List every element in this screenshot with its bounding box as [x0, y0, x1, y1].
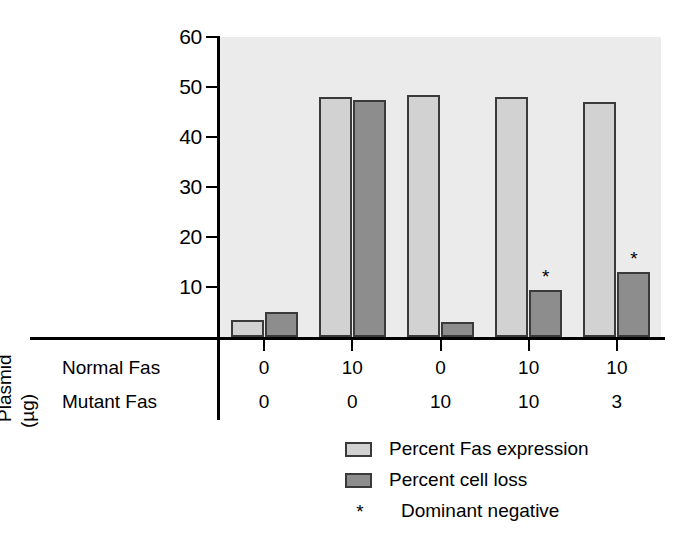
- y-axis-label-group: 60 50 40 30 20 10: [150, 0, 202, 360]
- bar-fas-expression-group-3: [407, 95, 440, 338]
- group-value-normal-fas-3: 0: [411, 358, 471, 377]
- bar-fas-expression-group-1: [231, 320, 264, 338]
- group-value-normal-fas-4: 10: [499, 358, 559, 377]
- x-tick-mark-group-2: [351, 340, 353, 351]
- y-tick-mark-60: [206, 36, 218, 38]
- legend-item-fas-expression: Percent Fas expression: [345, 436, 645, 467]
- bar-fas-expression-group-2: [319, 97, 352, 337]
- x-tick-mark-group-3: [440, 340, 442, 351]
- bar-cell-loss-group-5: [617, 272, 650, 337]
- group-value-normal-fas-5: 10: [587, 358, 647, 377]
- y-tick-label-50: 50: [150, 76, 202, 97]
- group-value-normal-fas-2: 10: [322, 358, 382, 377]
- bar-chart-figure: 60 50 40 30 20 10 ** Plasmid (µg) Normal…: [0, 0, 693, 547]
- x-tick-mark-group-4: [528, 340, 530, 351]
- y-tick-mark-30: [206, 186, 218, 188]
- group-value-mutant-fas-1: 0: [234, 392, 294, 411]
- x-axis-line: [30, 337, 665, 340]
- label-table-divider: [217, 338, 220, 420]
- y-tick-mark-40: [206, 136, 218, 138]
- legend-label-dominant-negative: Dominant negative: [401, 500, 559, 521]
- asterisk-icon-group-5: *: [617, 254, 650, 264]
- legend: Percent Fas expression Percent cell loss…: [345, 436, 645, 529]
- group-value-mutant-fas-4: 10: [499, 392, 559, 411]
- asterisk-icon: *: [349, 502, 371, 521]
- plot-area: **: [220, 37, 661, 337]
- x-tick-mark-group-1: [263, 340, 265, 351]
- plasmid-axis-title-word: Plasmid: [0, 354, 16, 422]
- row-label-normal-fas: Normal Fas: [62, 358, 210, 377]
- legend-swatch-icon-light: [345, 442, 372, 457]
- legend-swatch-icon-dark: [345, 473, 372, 488]
- bar-cell-loss-group-4: [529, 290, 562, 338]
- group-value-normal-fas-1: 0: [234, 358, 294, 377]
- y-tick-label-20: 20: [150, 226, 202, 247]
- y-tick-mark-10: [206, 286, 218, 288]
- x-tick-mark-group-5: [616, 340, 618, 351]
- y-tick-mark-50: [206, 86, 218, 88]
- plasmid-axis-title-unit: (µg): [17, 394, 39, 428]
- legend-label-cell-loss: Percent cell loss: [389, 469, 527, 490]
- bar-fas-expression-group-5: [583, 102, 616, 337]
- y-tick-label-10: 10: [150, 276, 202, 297]
- group-value-mutant-fas-2: 0: [322, 392, 382, 411]
- y-tick-label-60: 60: [150, 26, 202, 47]
- row-label-mutant-fas: Mutant Fas: [62, 392, 210, 411]
- y-tick-label-40: 40: [150, 126, 202, 147]
- legend-item-dominant-negative: * Dominant negative: [345, 498, 645, 529]
- y-tick-mark-20: [206, 236, 218, 238]
- y-tick-label-30: 30: [150, 176, 202, 197]
- legend-item-cell-loss: Percent cell loss: [345, 467, 645, 498]
- bar-fas-expression-group-4: [495, 97, 528, 337]
- group-value-mutant-fas-3: 10: [411, 392, 471, 411]
- legend-label-fas-expression: Percent Fas expression: [389, 438, 589, 459]
- group-value-mutant-fas-5: 3: [587, 392, 647, 411]
- bar-cell-loss-group-3: [441, 322, 474, 337]
- bar-cell-loss-group-1: [265, 312, 298, 337]
- bar-cell-loss-group-2: [353, 100, 386, 338]
- asterisk-icon-group-4: *: [529, 272, 562, 282]
